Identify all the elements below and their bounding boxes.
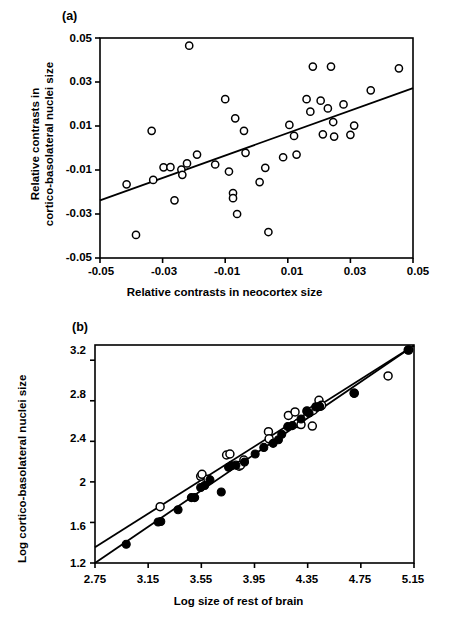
data-point-main-29 [307,108,314,115]
panel-b: (b) Log cortico-basolateral nuclei size … [0,308,449,618]
plot-frame [100,38,413,258]
panel-a: (a) Relative contrasts in cortico-basola… [0,0,449,308]
data-point-filled-27 [404,346,412,354]
data-point-main-10 [186,42,193,49]
data-point-main-31 [317,97,324,104]
data-point-filled-20 [288,422,296,430]
data-point-main-6 [171,197,178,204]
data-point-main-16 [229,195,236,202]
data-point-main-32 [319,131,326,138]
data-point-main-39 [351,122,358,129]
data-point-main-38 [347,131,354,138]
data-point-main-37 [340,101,347,108]
data-point-open-5 [226,450,234,458]
data-point-main-8 [179,171,186,178]
data-point-main-2 [148,127,155,134]
data-point-main-17 [232,115,239,122]
regression-line-open [95,346,414,548]
data-point-filled-5 [191,494,199,502]
data-point-filled-2 [157,517,165,525]
data-point-open-12 [291,408,299,416]
data-point-filled-12 [232,461,240,469]
figure-container: (a) Relative contrasts in cortico-basola… [0,0,449,618]
data-point-main-22 [262,164,269,171]
panel-a-plot-area [0,0,449,308]
data-point-filled-0 [122,540,130,548]
data-point-main-30 [309,63,316,70]
data-point-filled-23 [305,409,313,417]
data-point-filled-18 [278,430,286,438]
panel-b-plot-area [0,308,449,618]
data-point-filled-15 [260,443,268,451]
data-point-main-14 [225,168,232,175]
data-point-filled-9 [217,488,225,496]
data-point-main-36 [331,133,338,140]
data-point-main-11 [193,151,200,158]
data-point-filled-8 [206,476,214,484]
data-point-filled-26 [350,389,358,397]
data-point-filled-13 [241,458,249,466]
data-point-main-21 [256,179,263,186]
data-point-main-1 [132,231,139,238]
data-point-main-12 [212,161,219,168]
data-point-main-27 [293,151,300,158]
data-point-main-20 [242,149,249,156]
data-point-open-23 [384,372,392,380]
data-point-main-35 [330,118,337,125]
data-point-filled-21 [297,415,305,423]
data-point-main-4 [160,164,167,171]
data-point-open-17 [308,422,316,430]
data-point-main-24 [280,154,287,161]
data-point-main-33 [324,105,331,112]
data-point-main-19 [240,127,247,134]
data-point-main-28 [303,96,310,103]
data-point-main-3 [150,176,157,183]
data-point-main-0 [123,181,130,188]
data-point-main-5 [167,164,174,171]
data-point-main-23 [265,228,272,235]
data-point-filled-14 [251,450,259,458]
data-point-main-18 [233,210,240,217]
data-point-main-26 [290,132,297,139]
data-point-main-9 [183,160,190,167]
data-point-main-13 [222,96,229,103]
data-point-filled-3 [174,506,182,514]
data-point-main-40 [367,87,374,94]
data-point-filled-25 [316,402,324,410]
data-point-main-25 [286,121,293,128]
data-point-main-34 [327,63,334,70]
data-point-main-41 [395,65,402,72]
data-point-open-0 [156,503,164,511]
